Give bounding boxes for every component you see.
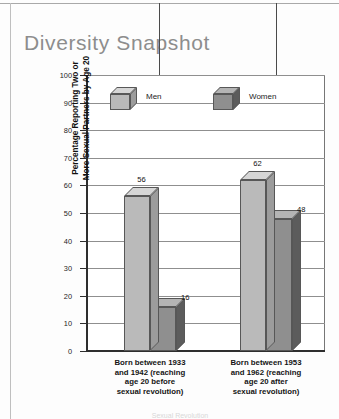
gridline xyxy=(88,130,325,131)
cube-front-face xyxy=(213,94,233,110)
bar-men-group1 xyxy=(124,196,150,351)
plot-area: 56166248 Men Women xyxy=(88,75,325,351)
bar-front-face xyxy=(124,196,150,351)
bar-side-face xyxy=(292,210,301,351)
gridline xyxy=(88,185,325,186)
y-axis-tick xyxy=(80,351,87,352)
y-axis-title-line1: Percentage Reporting Two or xyxy=(70,18,81,218)
gridline xyxy=(88,75,325,76)
category-label-line: age 20 before xyxy=(85,377,215,387)
y-axis-tick-label: 40 xyxy=(2,237,72,246)
y-axis-tick-label: 100 xyxy=(2,71,72,80)
y-axis-tick-label: 80 xyxy=(2,126,72,135)
y-axis-tick-label: 20 xyxy=(2,292,72,301)
bar-chart: 56166248 Men Women 0102030405060 xyxy=(0,70,339,365)
category-label-line: sexual revolution) xyxy=(201,387,331,397)
legend-label-men: Men xyxy=(146,92,162,101)
category-label-2: Born between 1953and 1962 (reachingage 2… xyxy=(201,358,331,396)
y-axis-title: Percentage Reporting Two or More Sexual … xyxy=(70,18,92,218)
y-axis-tick-label: 0 xyxy=(2,347,72,356)
y-axis-tick xyxy=(80,296,87,297)
y-axis-title-wrap: Percentage Reporting Two or More Sexual … xyxy=(70,18,86,218)
category-label-line: Born between 1953 xyxy=(201,358,331,368)
y-axis-tick xyxy=(80,241,87,242)
bar-value-label: 56 xyxy=(125,175,159,184)
y-axis-tick-label: 90 xyxy=(2,99,72,108)
y-axis-tick-label: 60 xyxy=(2,181,72,190)
footer-partial-text: Sexual Revolution xyxy=(80,412,280,419)
legend-cube-icon xyxy=(110,87,130,104)
y-axis-title-line2: More Sexual Partners by Age 20 xyxy=(81,18,92,218)
bar-value-label: 48 xyxy=(297,205,331,214)
category-label-line: sexual revolution) xyxy=(85,387,215,397)
category-label-line: and 1942 (reaching xyxy=(85,368,215,378)
y-axis-tick-label: 30 xyxy=(2,264,72,273)
chart-page: Diversity Snapshot 56166248 Men xyxy=(0,0,339,419)
legend-label-women: Women xyxy=(249,92,276,101)
y-axis-tick xyxy=(80,268,87,269)
category-label-1: Born between 1933and 1942 (reachingage 2… xyxy=(85,358,215,396)
bar-men-group2 xyxy=(240,180,266,351)
bar-side-face xyxy=(176,298,185,351)
bar-value-label: 16 xyxy=(181,293,215,302)
category-label-line: and 1962 (reaching xyxy=(201,368,331,378)
y-axis-tick-label: 10 xyxy=(2,319,72,328)
page-top-rule xyxy=(0,3,339,4)
bar-value-label: 62 xyxy=(241,159,275,168)
bar-side-face xyxy=(150,187,159,351)
bar-front-face xyxy=(240,180,266,351)
legend-cube-icon xyxy=(213,87,233,104)
gridline xyxy=(88,158,325,159)
category-label-line: Born between 1933 xyxy=(85,358,215,368)
cube-front-face xyxy=(110,94,130,110)
y-axis-tick xyxy=(80,323,87,324)
category-label-line: age 20 after xyxy=(201,377,331,387)
page-title: Diversity Snapshot xyxy=(24,31,210,55)
y-axis-tick-label: 50 xyxy=(2,209,72,218)
y-axis-tick-label: 70 xyxy=(2,154,72,163)
bar-side-face xyxy=(266,171,275,351)
